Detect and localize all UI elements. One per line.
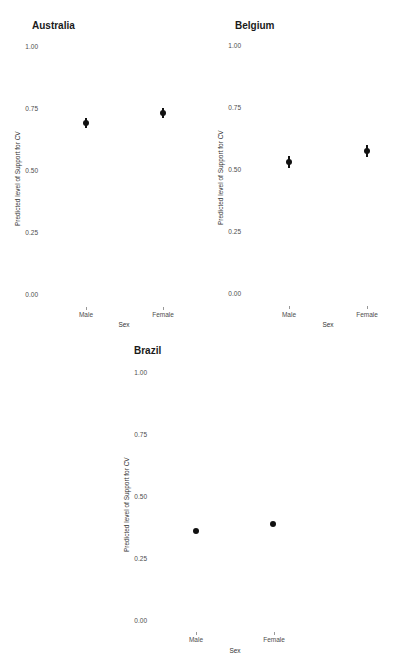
y-tick-label: 0.75: [119, 431, 147, 438]
data-point-male: [286, 159, 292, 165]
x-tick-label: Female: [347, 311, 387, 318]
x-tick-label: Female: [143, 311, 183, 318]
x-tick-label: Female: [254, 636, 294, 643]
y-axis-title: Predicted level of Support for CV: [123, 457, 130, 552]
y-tick-label: 0.75: [213, 104, 241, 111]
data-point-male: [83, 120, 89, 126]
x-axis-title: Sex: [308, 321, 348, 328]
x-axis-title: Sex: [104, 321, 144, 328]
x-tick-label: Male: [176, 636, 216, 643]
data-point-female: [270, 521, 276, 527]
y-tick-label: 0.50: [10, 167, 38, 174]
y-tick-label: 1.00: [10, 43, 38, 50]
panel-australia: Australia Predicted level of Support for…: [0, 0, 200, 330]
x-tick-mark: [274, 632, 275, 635]
y-axis-title: Predicted level of Support for CV: [14, 131, 21, 226]
x-tick-mark: [163, 307, 164, 310]
data-point-male: [193, 528, 199, 534]
x-tick-mark: [86, 307, 87, 310]
x-tick-mark: [289, 306, 290, 309]
y-tick-label: 0.50: [119, 493, 147, 500]
y-tick-label: 1.00: [213, 42, 241, 49]
y-tick-label: 0.00: [10, 291, 38, 298]
x-tick-mark: [367, 306, 368, 309]
y-tick-label: 0.00: [119, 617, 147, 624]
y-axis-title: Predicted level of Support for CV: [217, 130, 224, 225]
y-tick-label: 0.75: [10, 105, 38, 112]
y-tick-label: 1.00: [119, 369, 147, 376]
x-tick-mark: [196, 632, 197, 635]
x-tick-label: Male: [269, 311, 309, 318]
y-tick-label: 0.25: [119, 555, 147, 562]
y-tick-label: 0.25: [10, 229, 38, 236]
panel-belgium: Belgium Predicted level of Support for C…: [200, 0, 400, 330]
data-point-female: [160, 110, 166, 116]
panel-title: Belgium: [235, 20, 274, 31]
x-tick-label: Male: [66, 311, 106, 318]
y-tick-label: 0.00: [213, 290, 241, 297]
panel-title: Brazil: [134, 345, 161, 356]
data-point-female: [364, 148, 370, 154]
y-tick-label: 0.25: [213, 228, 241, 235]
x-axis-title: Sex: [215, 647, 255, 654]
y-tick-label: 0.50: [213, 166, 241, 173]
panel-title: Australia: [32, 20, 75, 31]
panel-brazil: Brazil Predicted level of Support for CV…: [100, 330, 300, 664]
